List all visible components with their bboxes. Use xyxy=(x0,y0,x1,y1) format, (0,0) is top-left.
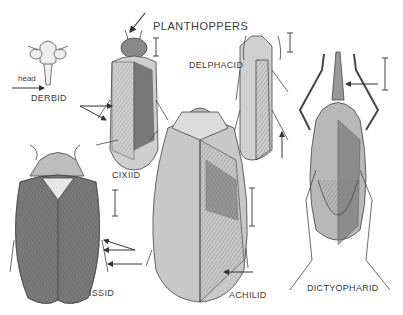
dictyopharid-scale-bar xyxy=(382,58,388,90)
delphacid-label: DELPHACID xyxy=(189,60,243,70)
planthoppers-illustration xyxy=(0,0,403,315)
cixiid-label: CIXIID xyxy=(112,170,140,180)
achilid-drawing xyxy=(146,108,248,302)
achilid-label: ACHILID xyxy=(229,290,267,300)
achilid-scale-bar xyxy=(249,188,255,226)
cixiid-pointer-arrow xyxy=(130,13,145,32)
issid-arrow-1 xyxy=(104,240,135,250)
dictyopharid-drawing xyxy=(290,52,390,290)
cixiid-wing-arrow-2 xyxy=(80,106,106,120)
issid-label: ISSID xyxy=(89,288,114,298)
cixiid-drawing xyxy=(96,30,168,170)
cixiid-scale-bar xyxy=(153,38,159,56)
dictyopharid-label: DICTYOPHARID xyxy=(307,283,379,293)
head-label: head xyxy=(18,74,36,83)
issid-drawing xyxy=(10,145,108,304)
derbid-label: DERBID xyxy=(31,93,67,103)
delphacid-drawing xyxy=(232,36,288,160)
figure-title: PLANTHOPPERS xyxy=(153,20,248,32)
delphacid-scale-bar xyxy=(287,33,293,52)
issid-scale-bar xyxy=(112,190,118,216)
